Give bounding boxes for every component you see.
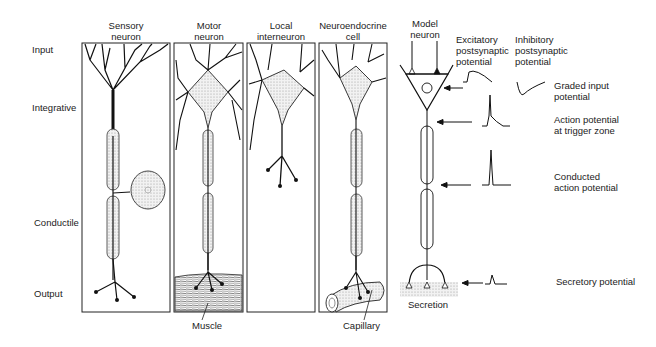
- secretory-waveform: [485, 275, 507, 284]
- sensory-neuron-title: Sensory neuron: [86, 20, 166, 42]
- local-interneuron-title: Local interneuron: [246, 20, 316, 42]
- motor-neuron-title: Motor neuron: [172, 20, 246, 42]
- motor-neuron-panel: [174, 43, 243, 312]
- potential-arrows: [437, 86, 483, 286]
- inhibitory-synapse-icon: [434, 68, 440, 74]
- epsp-waveform: [463, 71, 492, 82]
- ipsp-waveform: [517, 82, 545, 95]
- excitatory-synapse-icon: [409, 68, 415, 74]
- sensory-neuron-panel: [82, 43, 170, 312]
- conducted-ap-waveform: [482, 150, 511, 185]
- trigger-zone-ap-waveform: [482, 95, 510, 126]
- conducted-potential-label: Conducted action potential: [554, 171, 618, 193]
- neuroendocrine-cell-title: Neuroendocrine cell: [312, 20, 394, 42]
- local-interneuron-panel: [247, 43, 315, 312]
- capillary-label: Capillary: [343, 320, 380, 331]
- waveforms: [463, 71, 545, 284]
- model-neuron: [400, 41, 458, 297]
- secretory-potential-label: Secretory potential: [556, 276, 635, 287]
- neuroendocrine-cell-panel: [319, 43, 387, 312]
- row-label-input: Input: [32, 44, 53, 55]
- model-neuron-title: Model neuron: [400, 18, 450, 40]
- excitatory-psp-label: Excitatory postsynaptic potential: [456, 34, 509, 67]
- secretion-label: Secretion: [408, 299, 448, 310]
- row-label-output: Output: [34, 288, 63, 299]
- muscle-label: Muscle: [192, 320, 222, 331]
- graded-input-potential-label: Graded input potential: [554, 80, 609, 102]
- inhibitory-psp-label: Inhibitory postsynaptic potential: [515, 34, 568, 67]
- row-label-integrative: Integrative: [32, 102, 76, 113]
- row-label-conductile: Conductile: [34, 217, 79, 228]
- trigger-zone-potential-label: Action potential at trigger zone: [554, 114, 619, 136]
